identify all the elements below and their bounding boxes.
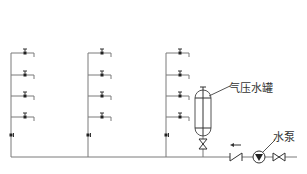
tank-leader-line [209, 86, 230, 96]
valve-body [87, 134, 90, 137]
riser-valve-icon [165, 133, 169, 137]
faucet-valve-icon [23, 113, 27, 119]
pump-icon [253, 140, 275, 163]
faucet-valve-icon [100, 49, 104, 55]
riser-1 [11, 53, 34, 157]
riser-valve-icon [10, 133, 14, 137]
valve-body [179, 74, 182, 77]
riser-3 [166, 53, 189, 157]
valve-body [101, 52, 104, 55]
valve-body [101, 116, 104, 119]
valve-body [179, 116, 182, 119]
faucet-valve-icon [100, 92, 104, 98]
valve-body [179, 95, 182, 98]
arrow-head [230, 143, 234, 147]
gate-valve [273, 153, 285, 161]
valve-body [24, 74, 27, 77]
valve-body [179, 52, 182, 55]
valve-body [24, 52, 27, 55]
faucet-valve-icon [23, 92, 27, 98]
faucet-valve-icon [178, 113, 182, 119]
riser-valve-icon [87, 133, 91, 137]
valve-body [24, 116, 27, 119]
check-valve-icon [230, 153, 242, 161]
faucet-valve-icon [23, 49, 27, 55]
pressure-tank-label: 气压水罐 [229, 83, 273, 94]
symbols [10, 49, 286, 163]
valve-body [165, 134, 168, 137]
valve-body [24, 95, 27, 98]
faucet-valve-icon [100, 71, 104, 77]
valve-body [101, 95, 104, 98]
tank-gate-valve-icon [199, 139, 207, 149]
flow-arrow-icon [230, 143, 241, 147]
pressure-tank-icon [195, 86, 230, 136]
valve-body [10, 134, 13, 137]
faucet-valve-icon [178, 49, 182, 55]
faucet-valve-icon [178, 92, 182, 98]
pump-label: 水泵 [273, 132, 295, 143]
faucet-valve-icon [178, 71, 182, 77]
valve-body [101, 74, 104, 77]
faucet-valve-icon [100, 113, 104, 119]
riser-2 [88, 53, 111, 157]
faucet-valve-icon [23, 71, 27, 77]
gate-valve [199, 139, 207, 149]
gate-valve-icon [273, 153, 285, 161]
pipe-network [11, 53, 297, 157]
